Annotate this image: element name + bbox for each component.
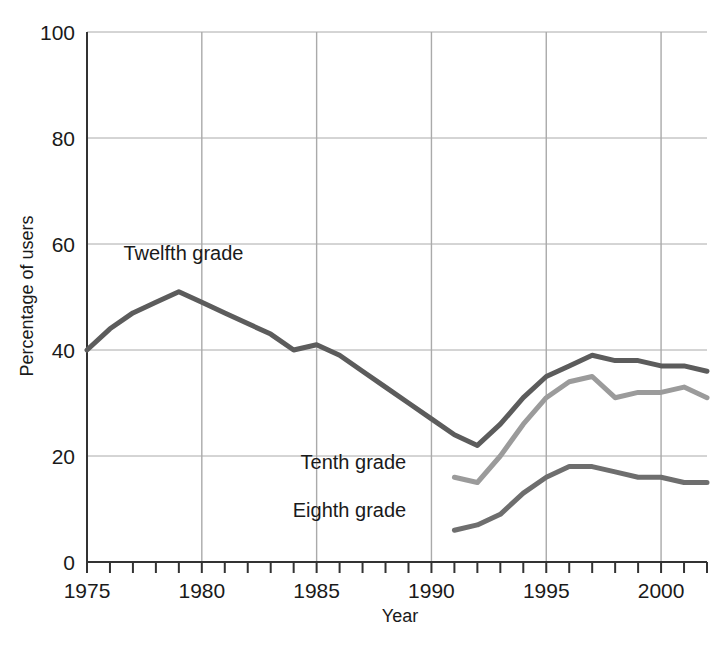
x-tick-label: 2000 xyxy=(638,579,685,602)
chart-background xyxy=(0,0,724,647)
series-label: Tenth grade xyxy=(301,451,407,473)
y-tick-label: 0 xyxy=(63,551,75,574)
y-tick-label: 40 xyxy=(52,339,75,362)
x-tick-label: 1980 xyxy=(178,579,225,602)
line-chart: 020406080100 197519801985199019952000 Tw… xyxy=(0,0,724,647)
x-tick-label: 1985 xyxy=(293,579,340,602)
y-tick-label: 100 xyxy=(40,21,75,44)
x-axis-title: Year xyxy=(382,606,418,626)
series-label: Twelfth grade xyxy=(123,242,243,264)
x-tick-label: 1990 xyxy=(408,579,455,602)
y-tick-label: 80 xyxy=(52,127,75,150)
x-tick-label: 1995 xyxy=(523,579,570,602)
series-label: Eighth grade xyxy=(293,499,406,521)
y-tick-label: 20 xyxy=(52,445,75,468)
chart-container: 020406080100 197519801985199019952000 Tw… xyxy=(0,0,724,647)
x-tick-label: 1975 xyxy=(64,579,111,602)
y-axis-title: Percentage of users xyxy=(17,215,37,376)
y-tick-label: 60 xyxy=(52,233,75,256)
